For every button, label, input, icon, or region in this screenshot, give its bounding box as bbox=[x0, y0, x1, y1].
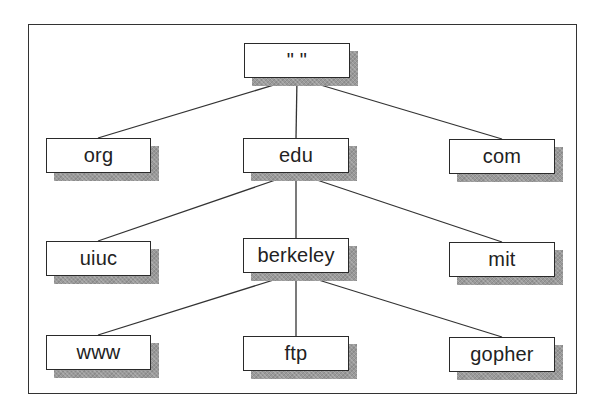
node-org: org bbox=[46, 138, 151, 173]
edge-root-org bbox=[98, 78, 297, 138]
node-edu: edu bbox=[243, 138, 349, 173]
node-root-label: " " bbox=[287, 49, 307, 72]
edge-edu-uiuc bbox=[98, 173, 296, 241]
node-com: com bbox=[449, 139, 555, 174]
edge-root-com bbox=[297, 78, 502, 139]
node-mit: mit bbox=[449, 242, 555, 277]
node-edu-label: edu bbox=[279, 144, 313, 167]
node-com-label: com bbox=[483, 145, 521, 168]
edge-edu-mit bbox=[296, 173, 502, 242]
node-berkeley-label: berkeley bbox=[257, 244, 334, 267]
node-gopher: gopher bbox=[449, 337, 555, 372]
node-uiuc-label: uiuc bbox=[80, 247, 118, 270]
node-gopher-label: gopher bbox=[470, 343, 533, 366]
node-mit-label: mit bbox=[488, 248, 515, 271]
node-ftp: ftp bbox=[243, 336, 349, 371]
node-berkeley: berkeley bbox=[243, 238, 349, 273]
node-uiuc: uiuc bbox=[46, 241, 151, 276]
node-ftp-label: ftp bbox=[285, 342, 308, 365]
node-www-label: www bbox=[77, 341, 121, 364]
node-www: www bbox=[46, 335, 151, 370]
node-root: " " bbox=[244, 43, 350, 78]
node-org-label: org bbox=[84, 144, 114, 167]
edge-root-edu bbox=[296, 78, 297, 138]
